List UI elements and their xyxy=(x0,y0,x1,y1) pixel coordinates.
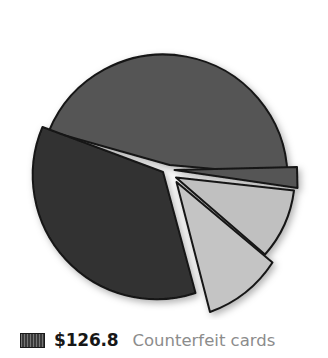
legend-label: Counterfeit cards xyxy=(132,331,275,350)
chart-legend: $126.8 Counterfeit cards xyxy=(0,322,328,358)
pie-chart-svg xyxy=(0,0,328,320)
pie-chart-figure: $126.8 Counterfeit cards xyxy=(0,0,328,358)
legend-item-counterfeit-cards[interactable]: $126.8 Counterfeit cards xyxy=(20,330,275,350)
legend-value: $126.8 xyxy=(54,330,118,350)
legend-swatch-fill xyxy=(21,334,44,347)
pie-chart-plot-area xyxy=(0,0,328,320)
pie-slices-group xyxy=(33,55,298,312)
legend-swatch-icon xyxy=(20,333,45,348)
